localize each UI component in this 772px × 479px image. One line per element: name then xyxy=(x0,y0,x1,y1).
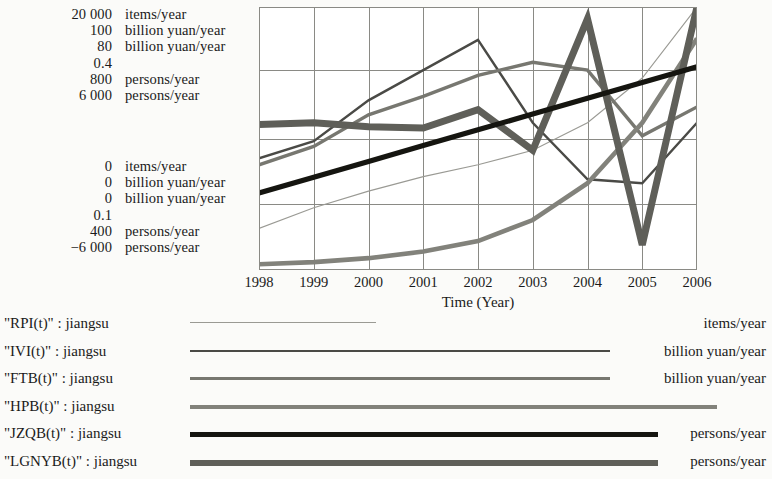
scale-max-value: 80 xyxy=(0,38,112,54)
legend-line xyxy=(190,405,717,409)
scale-max-value: 20 000 xyxy=(0,6,112,22)
x-tick-label: 2005 xyxy=(620,274,664,291)
scale-max-unit: persons/year xyxy=(112,87,199,103)
scale-max-row: 100billion yuan/year xyxy=(0,22,238,38)
legend-entry[interactable]: "FTB(t)" : jiangsubillion yuan/year xyxy=(0,367,772,395)
scale-min-value: 0 xyxy=(0,158,112,174)
legend-entry-line-sample xyxy=(190,322,376,323)
scale-max-row: 20 000items/year xyxy=(0,6,238,22)
x-axis-ticks: 199819992000200120022003200420052006 xyxy=(259,274,697,294)
scale-max-row: 800persons/year xyxy=(0,71,238,87)
legend-entry-unit: persons/year xyxy=(690,422,766,444)
scale-min-row: 400persons/year xyxy=(0,223,238,239)
legend-entry[interactable]: "HPB(t)" : jiangsu xyxy=(0,395,772,423)
scale-max-value: 6 000 xyxy=(0,87,112,103)
x-tick-label: 2001 xyxy=(401,274,445,291)
legend-entry-line-sample xyxy=(190,460,658,466)
x-tick-label: 2000 xyxy=(347,274,391,291)
scale-max-row: 80billion yuan/year xyxy=(0,38,238,54)
scale-max-row: 0.4 xyxy=(0,55,238,71)
plot-area xyxy=(259,7,697,270)
scale-min-unit: billion yuan/year xyxy=(112,174,225,190)
x-tick-label: 2002 xyxy=(456,274,500,291)
x-tick-label: 2003 xyxy=(511,274,555,291)
scale-min-row: 0billion yuan/year xyxy=(0,174,238,190)
legend-entry[interactable]: "JZQB(t)" : jiangsupersons/year xyxy=(0,422,772,450)
legend-entry-line-sample xyxy=(190,377,610,380)
scale-max-unit: billion yuan/year xyxy=(112,38,225,54)
scale-maxima-column: 20 000items/year100billion yuan/year80bi… xyxy=(0,6,238,103)
scale-max-value: 100 xyxy=(0,22,112,38)
scale-minima-column: 0items/year0billion yuan/year0billion yu… xyxy=(0,158,238,255)
legend-line xyxy=(190,322,376,323)
legend-line xyxy=(190,350,610,352)
legend-entry-unit: items/year xyxy=(704,312,766,334)
scale-min-row: 0items/year xyxy=(0,158,238,174)
legend-entry-line-sample xyxy=(190,432,658,437)
x-tick-label: 1998 xyxy=(237,274,281,291)
legend-entry-unit: billion yuan/year xyxy=(664,340,766,362)
scale-min-unit: persons/year xyxy=(112,239,199,255)
scale-min-row: −6 000persons/year xyxy=(0,239,238,255)
legend-entry[interactable]: "RPI(t)" : jiangsuitems/year xyxy=(0,312,772,340)
scale-max-row: 6 000persons/year xyxy=(0,87,238,103)
legend-entry-line-sample xyxy=(190,405,717,409)
scale-max-value: 800 xyxy=(0,71,112,87)
scale-min-unit: billion yuan/year xyxy=(112,190,225,206)
scale-min-value: 0 xyxy=(0,190,112,206)
scale-max-unit: persons/year xyxy=(112,71,199,87)
chart-page: 20 000items/year100billion yuan/year80bi… xyxy=(0,0,772,479)
legend-entry-unit: persons/year xyxy=(690,450,766,472)
scale-max-unit: items/year xyxy=(112,6,186,22)
legend-entry-label: "RPI(t)" : jiangsu xyxy=(4,312,109,334)
scale-min-value: 0 xyxy=(0,174,112,190)
scale-min-value: −6 000 xyxy=(0,239,112,255)
scale-max-value: 0.4 xyxy=(0,55,112,71)
legend-line xyxy=(190,432,658,437)
scale-min-unit: items/year xyxy=(112,158,186,174)
x-tick-label: 2004 xyxy=(566,274,610,291)
scale-min-row: 0billion yuan/year xyxy=(0,190,238,206)
legend-line xyxy=(190,377,610,380)
legend-entry[interactable]: "IVI(t)" : jiangsubillion yuan/year xyxy=(0,340,772,368)
x-tick-label: 2006 xyxy=(675,274,719,291)
x-axis-title: Time (Year) xyxy=(259,294,697,311)
plot-svg xyxy=(259,7,697,270)
scale-max-unit: billion yuan/year xyxy=(112,22,225,38)
scale-min-value: 400 xyxy=(0,223,112,239)
scale-min-value: 0.1 xyxy=(0,207,112,223)
legend-entry-label: "JZQB(t)" : jiangsu xyxy=(4,422,121,444)
scale-min-row: 0.1 xyxy=(0,207,238,223)
legend-line xyxy=(190,460,658,466)
legend-entry-line-sample xyxy=(190,350,610,352)
legend-entry-unit: billion yuan/year xyxy=(664,367,766,389)
scale-min-unit: persons/year xyxy=(112,223,199,239)
legend-entry-label: "IVI(t)" : jiangsu xyxy=(4,340,106,362)
chart-legend: "RPI(t)" : jiangsuitems/year"IVI(t)" : j… xyxy=(0,312,772,477)
legend-entry[interactable]: "LGNYB(t)" : jiangsupersons/year xyxy=(0,450,772,478)
legend-entry-label: "LGNYB(t)" : jiangsu xyxy=(4,450,137,472)
x-tick-label: 1999 xyxy=(292,274,336,291)
legend-entry-label: "FTB(t)" : jiangsu xyxy=(4,367,113,389)
legend-entry-label: "HPB(t)" : jiangsu xyxy=(4,395,115,417)
